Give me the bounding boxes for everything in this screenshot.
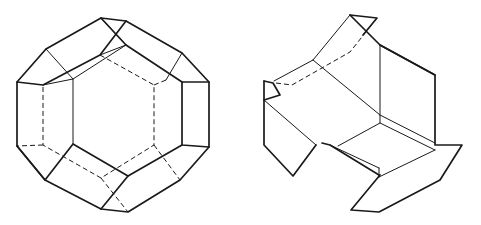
fold-edge bbox=[274, 15, 350, 81]
outline-edge bbox=[17, 18, 209, 212]
fold-edge bbox=[379, 150, 435, 177]
outline-edge bbox=[380, 45, 435, 75]
outline-edge bbox=[264, 81, 316, 176]
unfolded-net-figure bbox=[264, 15, 462, 212]
fold-edge bbox=[264, 100, 316, 145]
hidden-edge bbox=[17, 145, 43, 146]
fold-edge bbox=[380, 123, 435, 150]
fold-edge bbox=[46, 49, 73, 144]
outline-edge bbox=[101, 18, 209, 82]
fold-edge bbox=[313, 60, 380, 146]
outline-edge bbox=[182, 82, 209, 147]
hidden-edge bbox=[154, 80, 166, 85]
outline-edge bbox=[17, 21, 126, 85]
truncated-octahedron-figure bbox=[17, 18, 209, 212]
fold-edge bbox=[73, 45, 126, 79]
outline-edge bbox=[322, 143, 379, 175]
outline-edge bbox=[350, 15, 462, 212]
diagram-svg bbox=[0, 0, 481, 225]
outline-edge bbox=[101, 145, 182, 209]
fold-edge bbox=[380, 115, 435, 143]
fold-edge bbox=[330, 145, 379, 168]
outline-edge bbox=[264, 81, 280, 100]
hidden-edge bbox=[101, 178, 128, 212]
diagram-canvas bbox=[0, 0, 481, 225]
hidden-edge bbox=[154, 145, 180, 180]
